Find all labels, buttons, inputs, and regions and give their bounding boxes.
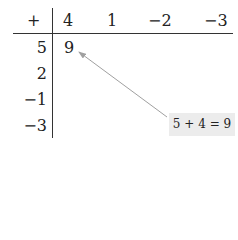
callout-box: 5 + 4 = 9 — [169, 113, 235, 136]
